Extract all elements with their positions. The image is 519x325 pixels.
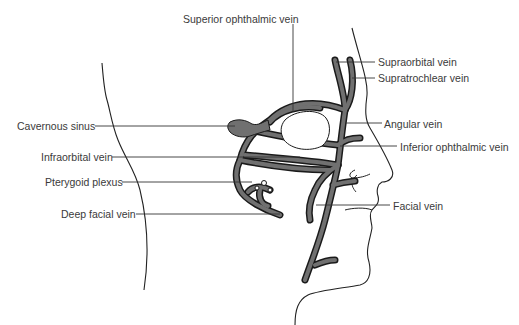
label-angular-vein: Angular vein bbox=[384, 118, 442, 130]
label-supraorbital-vein: Supraorbital vein bbox=[378, 56, 457, 68]
vein-network bbox=[236, 60, 360, 280]
label-pterygoid-plexus: Pterygoid plexus bbox=[45, 176, 123, 188]
label-facial-vein: Facial vein bbox=[393, 200, 443, 212]
nostril bbox=[350, 170, 370, 178]
leader-lines bbox=[95, 24, 397, 214]
lip bbox=[345, 208, 372, 210]
label-inferior-ophthalmic-vein: Inferior ophthalmic vein bbox=[400, 141, 509, 153]
label-infraorbital-vein: Infraorbital vein bbox=[41, 151, 113, 163]
eyeball bbox=[281, 111, 329, 149]
label-cavernous-sinus: Cavernous sinus bbox=[17, 120, 95, 132]
label-supratrochlear-vein: Supratrochlear vein bbox=[378, 72, 469, 84]
label-deep-facial-vein: Deep facial vein bbox=[61, 208, 136, 220]
label-superior-ophthalmic-vein: Superior ophthalmic vein bbox=[183, 13, 299, 25]
